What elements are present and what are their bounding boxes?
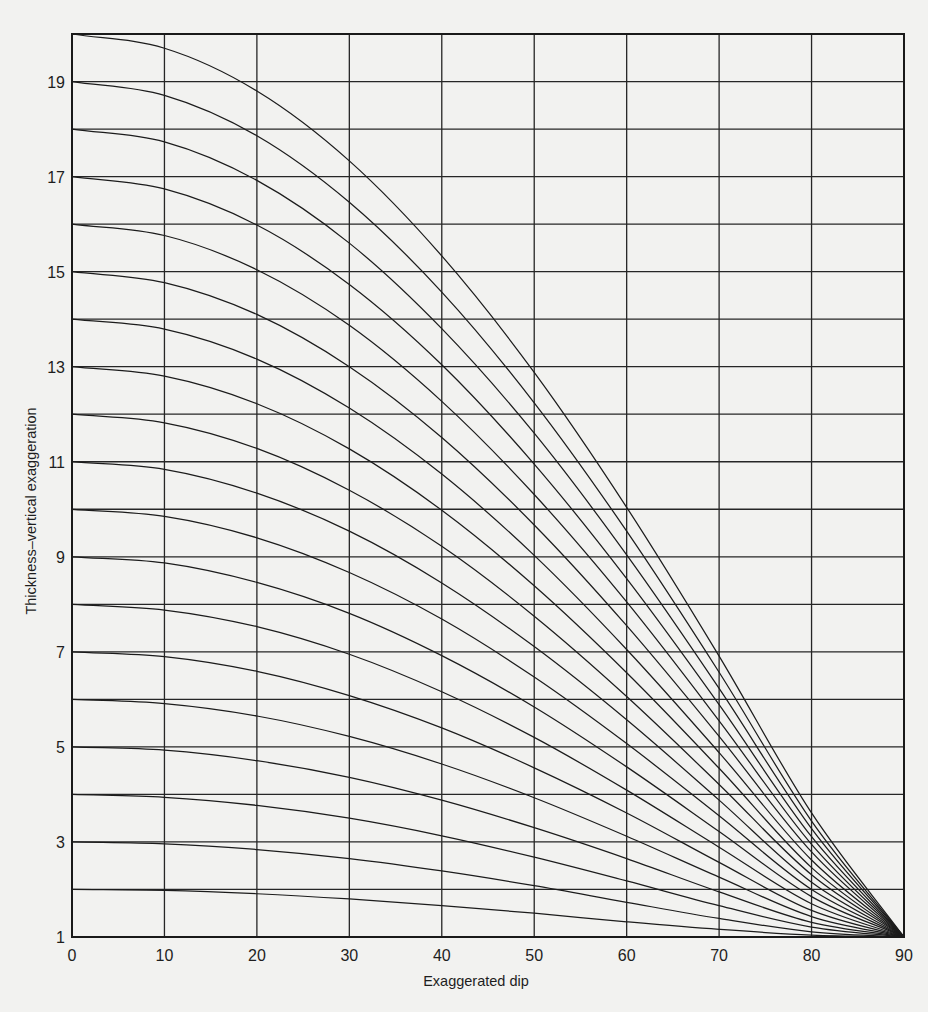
data-curves: [72, 34, 904, 937]
x-tick-label: 70: [710, 947, 728, 964]
y-tick-label: 13: [47, 359, 65, 376]
x-tick-label: 80: [803, 947, 821, 964]
x-tick-label: 40: [433, 947, 451, 964]
curve-exaggeration-12: [72, 414, 904, 937]
curve-exaggeration-20: [72, 34, 904, 937]
y-tick-label: 15: [47, 264, 65, 281]
y-axis-title: Thickness–vertical exaggeration: [23, 407, 39, 614]
x-axis-tick-labels: 0102030405060708090: [68, 947, 913, 964]
y-tick-label: 17: [47, 169, 65, 186]
x-axis-title: Exaggerated dip: [423, 973, 529, 989]
x-tick-label: 0: [68, 947, 77, 964]
y-tick-label: 7: [56, 644, 65, 661]
y-axis-tick-labels: 135791113151719: [47, 74, 65, 946]
x-tick-label: 90: [895, 947, 913, 964]
plot-frame: [72, 34, 904, 937]
chart: 0102030405060708090 135791113151719 Exag…: [0, 0, 928, 1012]
x-tick-label: 60: [618, 947, 636, 964]
grid-lines: [72, 34, 904, 937]
x-tick-label: 20: [248, 947, 266, 964]
y-tick-label: 3: [56, 834, 65, 851]
x-tick-label: 10: [156, 947, 174, 964]
curve-exaggeration-10: [72, 509, 904, 937]
y-tick-label: 5: [56, 739, 65, 756]
x-tick-label: 50: [525, 947, 543, 964]
curve-exaggeration-18: [72, 129, 904, 937]
curve-exaggeration-6: [72, 699, 904, 937]
y-tick-label: 9: [56, 549, 65, 566]
x-tick-label: 30: [340, 947, 358, 964]
y-tick-label: 11: [48, 454, 65, 471]
y-tick-label: 19: [47, 74, 65, 91]
y-tick-label: 1: [56, 929, 65, 946]
